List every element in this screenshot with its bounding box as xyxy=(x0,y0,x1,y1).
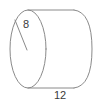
right-end-cap-arc xyxy=(74,10,92,88)
length-label: 12 xyxy=(54,89,66,101)
cylinder-diagram: 8 12 xyxy=(0,0,106,103)
cylinder-drawing: 8 12 xyxy=(0,0,106,103)
radius-label: 8 xyxy=(23,18,29,30)
